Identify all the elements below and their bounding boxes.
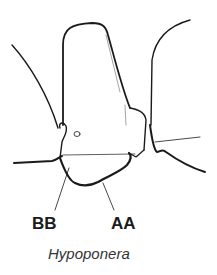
label-bb: BB (32, 214, 57, 234)
subpetiolar-process (60, 153, 131, 186)
leader-line-aa (103, 183, 114, 210)
leader-line-bb (55, 168, 69, 210)
label-aa: AA (111, 214, 136, 234)
diagram: BB AA Hypoponera (0, 0, 217, 275)
left-segment-outline (12, 45, 58, 128)
caption-genus: Hypoponera (48, 245, 130, 262)
petiole-node-outline (63, 23, 130, 125)
right-segment-outline (151, 20, 190, 125)
